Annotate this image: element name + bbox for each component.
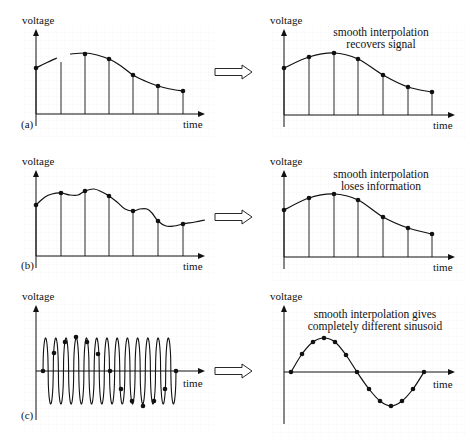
sample-dot xyxy=(163,387,168,392)
x-axis-label: time xyxy=(433,378,453,390)
left-panel: voltagetime xyxy=(22,290,215,432)
right-panel: voltagetimesmooth interpolationrecovers … xyxy=(270,14,465,139)
right-panel: voltagetimesmooth interpolationloses inf… xyxy=(270,155,465,281)
sample-dot xyxy=(344,353,349,358)
x-axis-label: time xyxy=(183,377,203,389)
sample-dot xyxy=(174,369,179,374)
x-axis-label: time xyxy=(433,261,453,273)
left-panel: voltagetime xyxy=(22,14,215,138)
right-panel: voltagetimesmooth interpolation givescom… xyxy=(270,290,465,436)
y-axis-label: voltage xyxy=(270,290,302,302)
left-panel: voltagetime xyxy=(22,155,215,280)
caption-line: completely different sinusoid xyxy=(308,320,443,333)
caption-line: recovers signal xyxy=(346,38,415,51)
y-axis-label: voltage xyxy=(22,14,54,26)
y-axis-label: voltage xyxy=(22,155,54,167)
sample-dot xyxy=(108,369,113,374)
sample-dot xyxy=(141,404,146,409)
x-axis-label: time xyxy=(433,119,453,131)
x-axis-label: time xyxy=(183,260,203,272)
sample-dot xyxy=(355,370,360,375)
sample-dot xyxy=(400,399,405,404)
panel-label: (b) xyxy=(21,259,34,272)
panel-label: (a) xyxy=(21,118,34,131)
y-axis-label: voltage xyxy=(270,155,302,167)
sample-dot xyxy=(85,340,90,345)
sample-dot xyxy=(322,336,327,341)
sampling-figure: voltagetime(a)voltagetimesmooth interpol… xyxy=(0,0,473,442)
sample-dot xyxy=(83,52,88,57)
sample-dot xyxy=(411,387,416,392)
sample-dot xyxy=(41,369,46,374)
sample-dot xyxy=(367,387,372,392)
figure-canvas: voltagetime(a)voltagetimesmooth interpol… xyxy=(0,0,473,442)
sample-dot xyxy=(378,399,383,404)
x-axis-label: time xyxy=(183,118,203,130)
y-axis-label: voltage xyxy=(22,290,54,302)
sample-dot xyxy=(119,387,124,392)
sample-dot xyxy=(422,370,427,375)
sample-dot xyxy=(130,399,135,404)
sample-dot xyxy=(389,404,394,409)
sample-dot xyxy=(52,351,57,356)
sample-dot xyxy=(333,340,338,345)
sample-dot xyxy=(96,352,101,357)
sample-dot xyxy=(300,352,305,357)
sample-dot xyxy=(289,370,294,375)
sample-dot xyxy=(63,340,68,345)
sample-dot xyxy=(311,340,316,345)
sample-dot xyxy=(74,335,79,340)
caption-line: loses information xyxy=(341,180,421,192)
y-axis-label: voltage xyxy=(270,14,302,26)
sample-dot xyxy=(152,399,157,404)
panel-label: (c) xyxy=(21,409,34,422)
